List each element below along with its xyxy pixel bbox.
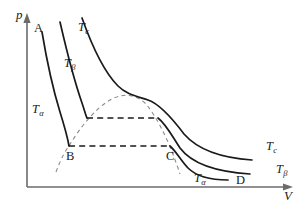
plot-canvas xyxy=(0,0,305,211)
pv-isotherm-figure: p V A B C D Tc Tβ Tα Tc Tβ Tα xyxy=(0,0,305,211)
isotherm-label-talpha-left-base: T xyxy=(32,102,39,116)
point-label-c: C xyxy=(166,150,174,163)
binodal-dome-curve xyxy=(56,95,180,174)
isotherm-label-tc-right-base: T xyxy=(266,139,273,153)
point-label-a: A xyxy=(34,22,43,35)
isotherm-talpha-left-branch xyxy=(42,32,69,146)
isotherm-label-tc-right-subscript: c xyxy=(273,145,277,155)
isotherm-label-talpha-bottom-subscript: α xyxy=(201,177,205,187)
isotherm-label-tbeta-right-base: T xyxy=(276,162,283,176)
isotherm-label-talpha-bottom: Tα xyxy=(194,172,205,185)
point-label-b: B xyxy=(66,150,74,163)
isotherm-tbeta-right-branch xyxy=(158,118,250,174)
isotherm-tbeta-group xyxy=(60,22,250,174)
y-axis-label: p xyxy=(16,8,23,21)
isotherm-label-talpha-left: Tα xyxy=(32,103,43,116)
isotherm-label-tbeta-top: Tβ xyxy=(64,57,75,70)
isotherm-label-talpha-bottom-base: T xyxy=(194,171,201,185)
isotherm-label-tc-top-subscript: c xyxy=(85,26,89,36)
point-label-d: D xyxy=(236,174,245,187)
isotherm-label-tbeta-top-subscript: β xyxy=(71,62,75,72)
isotherm-label-tbeta-right-subscript: β xyxy=(283,168,287,178)
x-axis-label: V xyxy=(284,189,292,202)
isotherm-label-tbeta-top-base: T xyxy=(64,56,71,70)
coexistence-dome-group xyxy=(56,95,180,174)
isotherm-label-tc-right: Tc xyxy=(266,140,277,153)
isotherm-label-tbeta-right: Tβ xyxy=(276,163,287,176)
isotherm-label-tc-top: Tc xyxy=(78,21,89,34)
y-axis-arrowhead xyxy=(23,13,30,23)
isotherm-label-tc-top-base: T xyxy=(78,20,85,34)
isotherm-label-talpha-left-subscript: α xyxy=(39,108,43,118)
